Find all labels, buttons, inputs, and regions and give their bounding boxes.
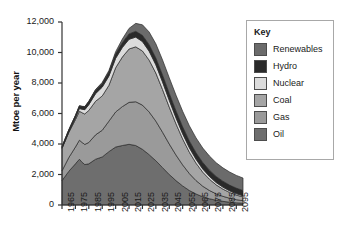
legend-item-label: Gas xyxy=(273,112,290,123)
legend-swatch-icon xyxy=(254,43,267,56)
y-tick-label: 2,000 xyxy=(14,169,54,179)
x-tick-label: 2005 xyxy=(120,192,130,212)
legend-swatch-icon xyxy=(254,111,267,124)
x-tick-label: 1975 xyxy=(79,192,89,212)
legend-item-hydro: Hydro xyxy=(254,58,328,75)
x-tick-label: 2095 xyxy=(240,192,250,212)
legend-swatch-icon xyxy=(254,77,267,90)
x-tick-label: 2055 xyxy=(187,192,197,212)
x-tick-label: 1965 xyxy=(66,192,76,212)
legend-item-nuclear: Nuclear xyxy=(254,75,328,92)
legend-item-gas: Gas xyxy=(254,109,328,126)
legend-swatch-icon xyxy=(254,94,267,107)
x-tick-label: 2045 xyxy=(173,192,183,212)
y-tick-label: 6,000 xyxy=(14,108,54,118)
y-tick-label: 10,000 xyxy=(14,47,54,57)
x-tick-label: 2035 xyxy=(160,192,170,212)
legend-item-label: Oil xyxy=(273,129,284,140)
legend-item-coal: Coal xyxy=(254,92,328,109)
x-tick-label: 1995 xyxy=(106,192,116,212)
y-tick-label: 8,000 xyxy=(14,77,54,87)
legend-title: Key xyxy=(254,27,328,38)
legend-swatch-icon xyxy=(254,128,267,141)
legend-item-oil: Oil xyxy=(254,126,328,143)
y-tick-label: 0 xyxy=(14,199,54,209)
chart-legend: Key RenewablesHydroNuclearCoalGasOil xyxy=(246,20,334,160)
y-tick-label: 4,000 xyxy=(14,138,54,148)
y-tick-label: 12,000 xyxy=(14,16,54,26)
x-tick-label: 1985 xyxy=(93,192,103,212)
x-tick-label: 2025 xyxy=(146,192,156,212)
legend-swatch-icon xyxy=(254,60,267,73)
x-tick-label: 2075 xyxy=(213,192,223,212)
legend-item-label: Hydro xyxy=(273,61,297,72)
legend-item-label: Nuclear xyxy=(273,78,304,89)
legend-item-renewables: Renewables xyxy=(254,41,328,58)
legend-item-label: Renewables xyxy=(273,44,323,55)
legend-item-label: Coal xyxy=(273,95,292,106)
x-tick-label: 2085 xyxy=(227,192,237,212)
y-axis-title: Mtoe per year xyxy=(10,59,21,145)
x-tick-label: 2065 xyxy=(200,192,210,212)
x-tick-label: 2015 xyxy=(133,192,143,212)
plot-areas xyxy=(62,23,243,205)
